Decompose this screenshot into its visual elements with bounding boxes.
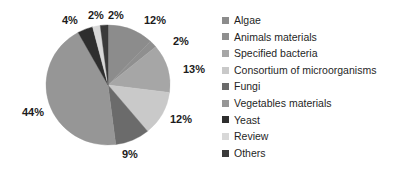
legend-item-label: Specified bacteria [234,48,317,59]
legend-item-label: Animals materials [234,32,317,43]
pie-percentage-label: 2% [108,9,124,21]
legend-swatch-icon [222,67,229,74]
legend-item: Vegetables materials [222,95,397,112]
pie-percentage-label: 12% [144,14,166,26]
legend-item: Specified bacteria [222,45,397,62]
pie-percentage-label: 12% [170,113,192,125]
pie-svg [0,0,215,176]
legend-item: Consortium of microorganisms [222,62,397,79]
legend-item-label: Yeast [234,115,260,126]
pie-percentage-label: 4% [62,14,78,26]
legend-swatch-icon [222,33,229,40]
pie-percentage-label: 13% [183,63,205,75]
pie-percentage-label: 2% [88,9,104,21]
legend-item: Review [222,128,397,145]
legend-swatch-icon [222,100,229,107]
legend-swatch-icon [222,50,229,57]
pie-slice-group [46,25,170,145]
legend-item-label: Fungi [234,81,260,92]
pie-plot-area: 12%2%13%12%9%44%4%2%2% [0,0,215,176]
legend-item: Yeast [222,112,397,129]
pie-percentage-label: 44% [22,106,44,118]
legend-item-label: Vegetables materials [234,98,331,109]
legend-swatch-icon [222,150,229,157]
legend-item-label: Others [234,148,266,159]
legend-item-label: Algae [234,15,261,26]
legend-item: Animals materials [222,29,397,46]
legend-item-label: Review [234,131,268,142]
legend-item: Fungi [222,78,397,95]
pie-percentage-label: 2% [173,35,189,47]
pie-percentage-label: 9% [122,148,138,160]
pie-chart-figure: 12%2%13%12%9%44%4%2%2% AlgaeAnimals mate… [0,0,399,176]
legend-item: Others [222,145,397,162]
legend-item-label: Consortium of microorganisms [234,65,376,76]
legend-swatch-icon [222,17,229,24]
legend-swatch-icon [222,133,229,140]
chart-legend: AlgaeAnimals materialsSpecified bacteria… [222,12,397,161]
legend-swatch-icon [222,116,229,123]
legend-swatch-icon [222,83,229,90]
legend-item: Algae [222,12,397,29]
